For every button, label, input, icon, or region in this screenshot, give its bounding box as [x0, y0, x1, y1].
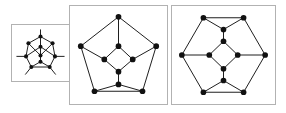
- graph-vertex: [116, 14, 122, 20]
- graph-edge: [41, 37, 53, 44]
- graph-vertex: [241, 15, 247, 21]
- graph-edge: [182, 55, 204, 92]
- graph-edge: [203, 18, 223, 30]
- graph-panel-large: [171, 5, 276, 105]
- graph-edge: [119, 84, 143, 91]
- graph-vertex: [116, 43, 122, 49]
- graph-edge: [119, 46, 133, 59]
- graph-vertex: [221, 78, 227, 84]
- graph-edge: [28, 37, 40, 44]
- graph-vertex: [24, 54, 28, 58]
- graph-vertex: [29, 65, 33, 69]
- graph-edge: [209, 41, 223, 55]
- graph-vertex: [130, 57, 136, 63]
- graph-edge: [244, 18, 266, 55]
- graph-edge: [224, 80, 244, 92]
- graph-drawing-medium: [70, 6, 167, 104]
- graph-edge: [224, 55, 238, 69]
- graph-vertex: [101, 57, 107, 63]
- graph-vertex: [262, 52, 268, 58]
- graph-vertex: [116, 82, 122, 88]
- graph-edge: [224, 41, 238, 55]
- graph-vertex: [116, 69, 122, 75]
- graph-vertex: [78, 43, 84, 49]
- graph-vertex: [221, 38, 227, 44]
- graph-vertex: [48, 65, 52, 69]
- graph-vertex: [51, 41, 55, 45]
- graph-vertex: [38, 45, 42, 49]
- graph-sequence-figure: [0, 0, 286, 113]
- graph-edge: [244, 55, 266, 92]
- graph-panel-medium: [69, 5, 168, 105]
- graph-edge: [224, 18, 244, 30]
- graph-edge-layer: [81, 17, 156, 91]
- graph-edge: [94, 84, 118, 91]
- graph-edge: [203, 80, 223, 92]
- graph-drawing-large: [172, 6, 275, 104]
- graph-vertex: [26, 41, 30, 45]
- graph-vertex: [241, 89, 247, 95]
- graph-vertex: [153, 43, 159, 49]
- graph-vertex: [221, 27, 227, 33]
- graph-edge: [119, 17, 157, 46]
- graph-drawing-small: [12, 25, 69, 81]
- graph-edge: [209, 55, 223, 69]
- graph-vertex: [92, 88, 98, 94]
- graph-vertex: [235, 52, 241, 58]
- graph-vertex: [38, 35, 42, 39]
- graph-vertex: [140, 88, 146, 94]
- graph-vertex: [206, 52, 212, 58]
- graph-vertex: [221, 66, 227, 72]
- graph-vertex: [53, 54, 57, 58]
- graph-edge: [182, 18, 204, 55]
- graph-panel-small: [11, 24, 70, 82]
- graph-vertex: [179, 52, 185, 58]
- graph-vertex: [38, 60, 42, 64]
- graph-edge: [104, 46, 118, 59]
- graph-vertex: [201, 89, 207, 95]
- graph-edge: [81, 17, 119, 46]
- graph-vertex: [38, 53, 42, 57]
- graph-vertex: [201, 15, 207, 21]
